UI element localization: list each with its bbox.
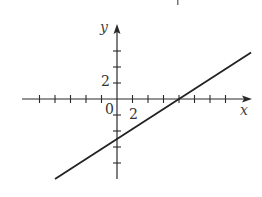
x-tick-label-2: 2 bbox=[129, 106, 138, 122]
y-axis-label: y bbox=[99, 19, 109, 35]
cropped-text-fragment bbox=[177, 0, 179, 5]
y-tick-label-2: 2 bbox=[101, 73, 110, 89]
coordinate-graph: y x 0 2 2 bbox=[0, 0, 262, 197]
origin-label: 0 bbox=[105, 101, 114, 117]
x-axis-label: x bbox=[240, 102, 248, 118]
data-line bbox=[55, 53, 251, 179]
